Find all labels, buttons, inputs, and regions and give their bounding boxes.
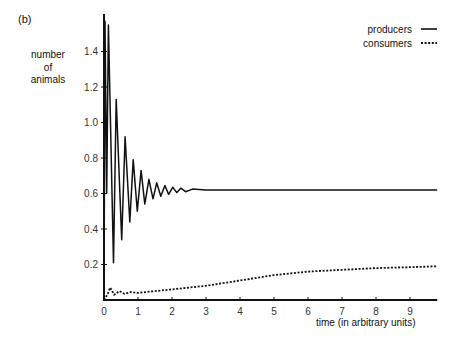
y-tick-label: 1.4 xyxy=(84,46,98,57)
x-tick-label: 2 xyxy=(169,306,175,317)
axes xyxy=(101,14,437,301)
y-tick-label: 0.4 xyxy=(84,224,98,235)
y-tick-label: 0.8 xyxy=(84,153,98,164)
tick-labels: 0.20.40.60.81.01.21.40123456789 xyxy=(84,46,413,317)
x-axis-label: time (in arbitrary units) xyxy=(316,317,415,328)
x-tick-label: 6 xyxy=(305,306,311,317)
x-tick-label: 4 xyxy=(237,306,243,317)
x-tick-label: 1 xyxy=(135,306,141,317)
producers-line xyxy=(104,21,437,300)
x-tick-label: 8 xyxy=(373,306,379,317)
y-tick-label: 0.2 xyxy=(84,259,98,270)
y-tick-label: 0.6 xyxy=(84,188,98,199)
x-tick-label: 5 xyxy=(271,306,277,317)
y-tick-label: 1.2 xyxy=(84,82,98,93)
plot-area: 0.20.40.60.81.01.21.40123456789 xyxy=(0,0,460,345)
x-tick-label: 3 xyxy=(203,306,209,317)
x-tick-label: 9 xyxy=(407,306,413,317)
x-tick-label: 7 xyxy=(339,306,345,317)
y-tick-label: 1.0 xyxy=(84,117,98,128)
x-tick-label: 0 xyxy=(101,306,107,317)
consumers-line xyxy=(104,266,437,300)
